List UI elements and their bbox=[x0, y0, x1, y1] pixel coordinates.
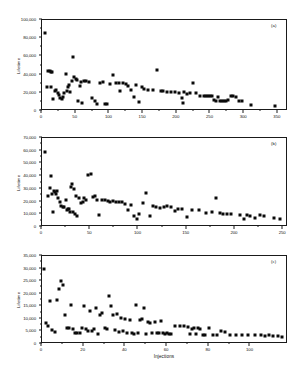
data-point bbox=[174, 324, 177, 327]
x-tick bbox=[166, 342, 167, 346]
data-points-layer bbox=[42, 20, 286, 109]
data-point bbox=[43, 267, 46, 270]
data-point bbox=[166, 90, 169, 93]
data-point bbox=[214, 197, 217, 200]
data-point bbox=[170, 90, 173, 93]
x-minor-tick bbox=[113, 225, 114, 227]
x-tick-label: 250 bbox=[279, 230, 286, 235]
data-point bbox=[77, 99, 80, 102]
x-tick-label: 100 bbox=[134, 230, 141, 235]
data-point bbox=[262, 214, 265, 217]
x-tick bbox=[137, 225, 138, 229]
y-tick-label: 0 bbox=[0, 341, 36, 346]
data-point bbox=[134, 304, 137, 307]
x-minor-tick bbox=[91, 109, 92, 111]
data-point bbox=[90, 96, 93, 99]
data-point bbox=[147, 88, 150, 91]
data-point bbox=[75, 215, 78, 218]
data-point bbox=[227, 99, 230, 102]
data-point bbox=[241, 333, 244, 336]
data-point bbox=[67, 83, 70, 86]
panel-label: (b) bbox=[271, 141, 276, 146]
x-axis-title: Injections bbox=[154, 354, 174, 359]
y-tick-label: 20,000 bbox=[0, 89, 36, 94]
y-tick bbox=[39, 149, 42, 150]
data-point bbox=[70, 79, 73, 82]
data-point bbox=[78, 332, 81, 335]
y-tick bbox=[39, 255, 42, 256]
data-point bbox=[119, 89, 122, 92]
y-tick-label: 10,000 bbox=[0, 315, 36, 320]
x-minor-tick bbox=[260, 109, 261, 111]
x-tick-label: 20 bbox=[80, 347, 85, 352]
y-tick-label: 0 bbox=[0, 108, 36, 113]
x-minor-tick bbox=[103, 342, 104, 344]
data-point bbox=[205, 212, 208, 215]
data-point bbox=[177, 208, 180, 211]
data-point bbox=[154, 205, 157, 208]
x-tick-label: 0 bbox=[40, 230, 42, 235]
x-minor-tick bbox=[57, 109, 58, 111]
y-minor-tick bbox=[40, 194, 42, 195]
y-tick-label: 5,000 bbox=[0, 328, 36, 333]
data-point bbox=[77, 196, 80, 199]
data-point bbox=[48, 186, 51, 189]
data-point bbox=[216, 334, 219, 337]
data-point bbox=[211, 333, 214, 336]
y-minor-tick bbox=[40, 168, 42, 169]
y-tick bbox=[39, 175, 42, 176]
data-point bbox=[272, 334, 275, 337]
x-minor-tick bbox=[192, 109, 193, 111]
x-tick bbox=[243, 109, 244, 113]
data-point bbox=[126, 332, 129, 335]
x-tick bbox=[276, 109, 277, 113]
data-point bbox=[64, 72, 67, 75]
data-point bbox=[195, 333, 198, 336]
x-tick bbox=[142, 109, 143, 113]
x-tick-label: 200 bbox=[172, 114, 179, 119]
data-point bbox=[180, 97, 183, 100]
data-point bbox=[111, 73, 114, 76]
panel-label: (a) bbox=[271, 23, 276, 28]
y-tick bbox=[39, 73, 42, 74]
data-point bbox=[96, 103, 99, 106]
x-tick-label: 80 bbox=[205, 347, 210, 352]
data-point bbox=[249, 103, 252, 106]
y-tick bbox=[39, 19, 42, 20]
y-minor-tick bbox=[40, 261, 42, 262]
data-point bbox=[124, 317, 127, 320]
x-tick bbox=[185, 225, 186, 229]
data-point bbox=[122, 330, 125, 333]
data-point bbox=[214, 99, 217, 102]
plot-area-a bbox=[41, 19, 287, 110]
data-point bbox=[191, 81, 194, 84]
y-tick bbox=[39, 317, 42, 318]
y-tick-label: 35,000 bbox=[0, 253, 36, 258]
data-point bbox=[88, 80, 91, 83]
data-point bbox=[143, 306, 146, 309]
y-minor-tick bbox=[40, 156, 42, 157]
data-point bbox=[68, 327, 71, 330]
x-tick bbox=[175, 109, 176, 113]
data-point bbox=[159, 319, 162, 322]
y-minor-tick bbox=[40, 324, 42, 325]
data-point bbox=[97, 332, 100, 335]
data-point bbox=[155, 69, 158, 72]
data-point bbox=[210, 211, 213, 214]
y-minor-tick bbox=[40, 336, 42, 337]
x-tick bbox=[89, 225, 90, 229]
data-point bbox=[65, 199, 68, 202]
data-point bbox=[188, 91, 191, 94]
y-tick bbox=[39, 91, 42, 92]
y-tick bbox=[39, 37, 42, 38]
x-minor-tick bbox=[161, 225, 162, 227]
y-tick bbox=[39, 280, 42, 281]
data-point bbox=[218, 212, 221, 215]
y-axis-title: Lifetime bbox=[16, 292, 21, 308]
data-point bbox=[70, 304, 73, 307]
x-minor-tick bbox=[125, 109, 126, 111]
y-tick-label: 0 bbox=[0, 224, 36, 229]
y-tick-label: 10,000 bbox=[0, 211, 36, 216]
x-minor-tick bbox=[226, 109, 227, 111]
data-point bbox=[49, 175, 52, 178]
